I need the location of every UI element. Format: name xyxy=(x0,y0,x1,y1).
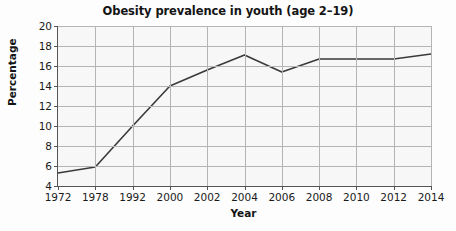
gridline-vertical xyxy=(245,26,246,186)
y-tick-label: 12 xyxy=(39,100,52,112)
x-tick-mark xyxy=(207,186,208,190)
chart-title: Obesity prevalence in youth (age 2–19) xyxy=(0,4,456,18)
y-tick-label: 10 xyxy=(39,120,52,132)
gridline-vertical xyxy=(95,26,96,186)
y-tick-label: 14 xyxy=(39,80,52,92)
y-tick-label: 20 xyxy=(39,20,52,32)
y-axis-label: Percentage xyxy=(6,38,18,106)
y-tick-mark xyxy=(54,46,58,47)
x-tick-mark xyxy=(319,186,320,190)
gridline-vertical xyxy=(319,26,320,186)
y-tick-label: 18 xyxy=(39,40,52,52)
x-tick-label: 1978 xyxy=(82,191,109,203)
y-tick-mark xyxy=(54,26,58,27)
x-tick-mark xyxy=(133,186,134,190)
x-tick-label: 2004 xyxy=(231,191,258,203)
x-tick-label: 2014 xyxy=(418,191,445,203)
y-tick-label: 16 xyxy=(39,60,52,72)
x-tick-mark xyxy=(282,186,283,190)
x-tick-mark xyxy=(245,186,246,190)
y-tick-mark xyxy=(54,86,58,87)
y-tick-mark xyxy=(54,146,58,147)
x-tick-label: 1992 xyxy=(119,191,146,203)
gridline-vertical xyxy=(282,26,283,186)
y-tick-label: 8 xyxy=(45,140,52,152)
x-tick-mark xyxy=(58,186,59,190)
y-tick-mark xyxy=(54,66,58,67)
gridline-vertical xyxy=(133,26,134,186)
y-tick-mark xyxy=(54,166,58,167)
chart-figure: Obesity prevalence in youth (age 2–19) P… xyxy=(0,0,456,231)
y-tick-mark xyxy=(54,106,58,107)
plot-area: 4681012141618201972197819922000200220042… xyxy=(57,26,431,187)
x-tick-label: 2006 xyxy=(268,191,295,203)
x-tick-label: 2002 xyxy=(194,191,221,203)
x-tick-mark xyxy=(95,186,96,190)
x-tick-mark xyxy=(356,186,357,190)
x-axis-label: Year xyxy=(57,207,430,219)
x-tick-label: 2012 xyxy=(380,191,407,203)
x-tick-mark xyxy=(431,186,432,190)
gridline-vertical xyxy=(356,26,357,186)
x-tick-mark xyxy=(170,186,171,190)
x-tick-label: 2010 xyxy=(343,191,370,203)
x-tick-label: 1972 xyxy=(45,191,72,203)
gridline-vertical xyxy=(394,26,395,186)
x-tick-label: 2000 xyxy=(157,191,184,203)
gridline-vertical xyxy=(207,26,208,186)
gridline-vertical xyxy=(170,26,171,186)
x-tick-label: 2008 xyxy=(306,191,333,203)
x-tick-mark xyxy=(394,186,395,190)
gridline-vertical xyxy=(431,26,432,186)
y-tick-label: 6 xyxy=(45,160,52,172)
y-tick-mark xyxy=(54,126,58,127)
